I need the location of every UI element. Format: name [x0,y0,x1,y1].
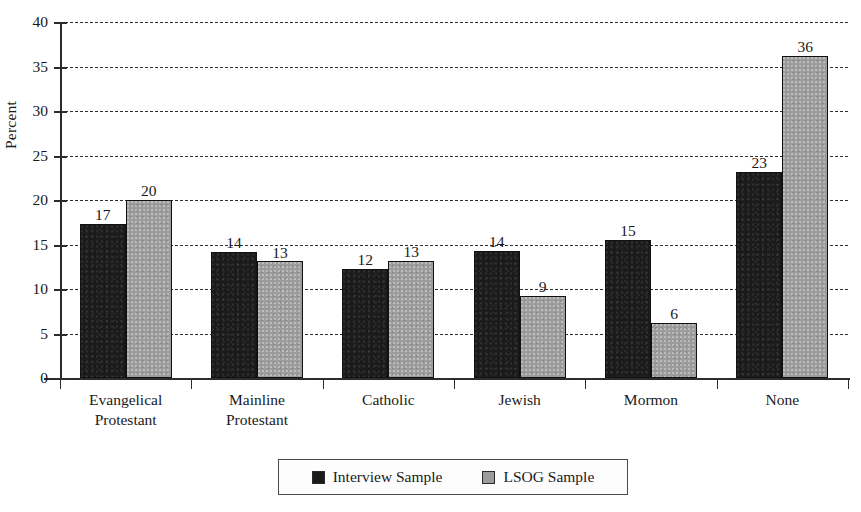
bar: 17 [80,224,126,378]
y-axis-tick-label: 15 [6,237,48,253]
chart-legend: Interview Sample LSOG Sample [278,459,628,495]
bar-value-label: 14 [226,234,242,252]
legend-swatch-icon [312,471,325,484]
x-axis-category-label: Mormon [585,390,716,410]
bar: 6 [651,323,697,378]
gridline [60,245,848,246]
x-axis-tick-mark [60,380,61,389]
y-axis-tick-label: 20 [6,192,48,208]
x-axis-category-label-line: Evangelical [60,390,191,410]
bar: 23 [736,172,782,378]
bar-value-label: 23 [752,154,768,172]
legend-item: Interview Sample [312,468,443,486]
x-axis-tick-mark [191,380,192,389]
bar-value-label: 13 [404,243,420,261]
x-axis-tick-mark [323,380,324,389]
x-axis-category-label: EvangelicalProtestant [60,390,191,430]
bar-value-label: 17 [95,206,111,224]
bar: 9 [520,296,566,378]
gridline [60,289,848,290]
x-axis-category-label: MainlineProtestant [191,390,322,430]
x-axis-tick-mark [454,380,455,389]
legend-item: LSOG Sample [482,468,594,486]
legend-label: Interview Sample [333,468,443,486]
x-axis-tick-mark [848,380,849,389]
bar: 36 [782,56,828,378]
x-axis-tick-mark [717,380,718,389]
bar: 13 [257,261,303,378]
bar: 20 [126,200,172,378]
gridline [60,378,848,379]
gridline [60,200,848,201]
bar-chart: Percent 4035302520151050 172014131213149… [0,0,861,512]
bar-value-label: 13 [272,244,288,262]
x-axis-category-label-line: Protestant [60,410,191,430]
y-axis-tick-label: 10 [6,281,48,297]
y-axis-tick-label: 0 [6,370,48,386]
gridline [60,67,848,68]
y-axis-tick-label: 35 [6,59,48,75]
bar: 14 [474,251,520,378]
y-axis-tick-label: 30 [6,103,48,119]
bar: 14 [211,252,257,378]
x-axis-category-label-line: Jewish [454,390,585,410]
x-axis-category-label: None [717,390,848,410]
legend-label: LSOG Sample [503,468,594,486]
x-axis-category-label-line: Mainline [191,390,322,410]
gridline [60,22,848,23]
y-axis-tick-label: 5 [6,326,48,342]
x-axis-category-label: Catholic [323,390,454,410]
bar: 13 [388,261,434,378]
bar-value-label: 20 [141,182,157,200]
bar-value-label: 15 [620,222,636,240]
legend-swatch-icon [482,471,495,484]
bar-value-label: 9 [539,278,547,296]
x-axis-category-label-line: Protestant [191,410,322,430]
x-axis-category-label-line: None [717,390,848,410]
bar: 12 [342,269,388,378]
plot-area: 1720141312131491562336 [60,22,848,378]
bar: 15 [605,240,651,378]
gridline [60,111,848,112]
bar-value-label: 36 [798,38,814,56]
y-axis-tick-label: 25 [6,148,48,164]
bar-value-label: 6 [670,305,678,323]
bar-value-label: 12 [358,251,374,269]
x-axis-category-label-line: Mormon [585,390,716,410]
bar-value-label: 14 [489,233,505,251]
x-axis-category-label-line: Catholic [323,390,454,410]
gridline [60,334,848,335]
x-axis-category-label: Jewish [454,390,585,410]
gridline [60,156,848,157]
y-axis-title: Percent [2,70,24,180]
y-axis-tick-label: 40 [6,14,48,30]
x-axis-tick-mark [585,380,586,389]
